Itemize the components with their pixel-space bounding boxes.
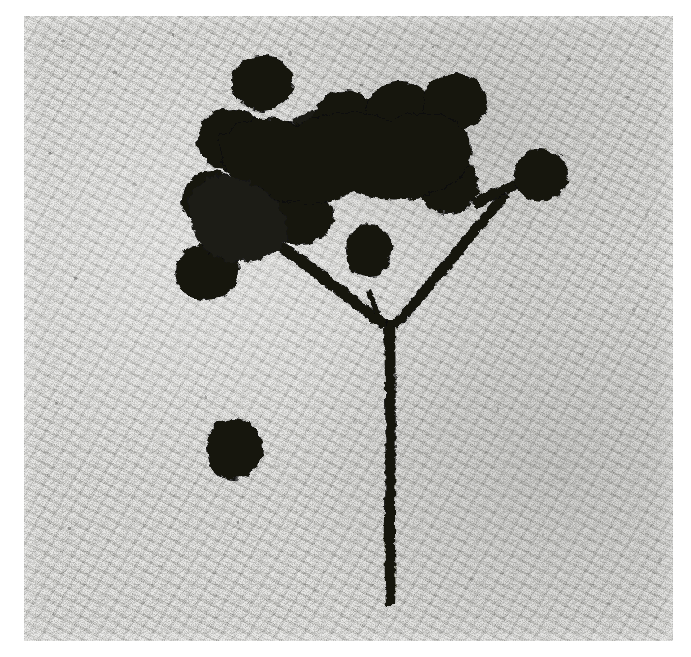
berry-small-middle (346, 224, 392, 276)
detached-berry (206, 418, 262, 480)
berry-cluster (175, 54, 568, 300)
screenshot-canvas (0, 0, 691, 657)
berry-far-right (514, 149, 568, 201)
detached-berry-group (206, 418, 262, 480)
photograph-plate (24, 16, 673, 641)
berry-top (231, 54, 293, 110)
plant-specimen (24, 16, 673, 641)
main-stem (384, 319, 396, 605)
